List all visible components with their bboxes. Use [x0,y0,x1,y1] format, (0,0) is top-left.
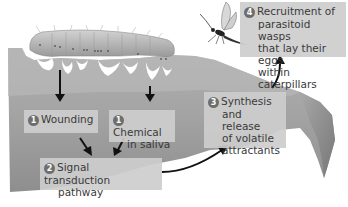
step-number-badge: 1 [28,115,39,126]
step-synthesis-box: 3Synthesis and release of volatile attra… [204,92,286,148]
step-recruitment-box: 4Recruitment of parasitoid wasps that la… [240,2,346,57]
step-label-line3: of volatile [208,132,282,144]
caterpillar [30,25,175,60]
step-label-line2: in saliva [113,138,171,150]
step-number-badge: 4 [244,7,255,18]
step-label-line2: parasitoid wasps [244,18,342,42]
step-number-badge: 1 [113,115,124,126]
step-label: Chemical [113,126,162,138]
step-label: Synthesis [221,95,272,107]
step-label-line2: pathway [44,186,158,198]
step-label-line3: that lay their eggs [244,42,342,66]
step-chemical-box: 1Chemical in saliva [109,110,175,142]
step-label-line4: within caterpillars [244,66,342,90]
step-label: Wounding [41,113,93,125]
step-signal-box: 2Signal transduction pathway [40,158,162,190]
step-label-line2: and release [208,108,282,132]
diagram-canvas: 1Wounding 1Chemical in saliva 2Signal tr… [0,0,348,207]
step-number-badge: 2 [44,163,55,174]
step-wounding-box: 1Wounding [24,110,98,133]
step-label: Recruitment of [257,5,335,17]
step-label-line4: attractants [208,144,282,156]
step-number-badge: 3 [208,97,219,108]
